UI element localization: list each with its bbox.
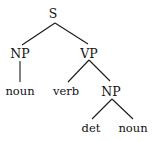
edge-vp-verb xyxy=(68,60,89,82)
leaf-verb: verb xyxy=(52,84,79,98)
edges xyxy=(20,23,133,119)
node-np-object: NP xyxy=(101,84,120,99)
edge-s-np xyxy=(22,23,55,45)
node-s: S xyxy=(49,6,58,21)
parse-tree: S NP VP noun verb NP det noun xyxy=(0,0,157,141)
node-np-subject: NP xyxy=(10,46,29,61)
leaf-det: det xyxy=(82,121,101,135)
nodes: S NP VP noun verb NP det noun xyxy=(5,6,148,135)
leaf-noun-subject: noun xyxy=(5,84,35,98)
edge-vp-np xyxy=(89,60,110,81)
edge-s-vp xyxy=(55,23,88,44)
edge-np-noun-2 xyxy=(112,99,133,119)
edge-np-det xyxy=(92,99,112,119)
leaf-noun-object: noun xyxy=(118,121,148,135)
node-vp: VP xyxy=(79,46,97,61)
